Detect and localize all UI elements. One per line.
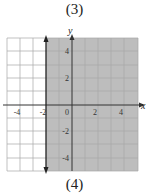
x-tick-label: 4: [119, 108, 123, 117]
x-tick-label: -4: [14, 108, 21, 117]
x-tick-label: 2: [93, 108, 97, 117]
y-tick-label: 4: [65, 47, 69, 56]
y-tick-label: -2: [62, 127, 69, 136]
y-axis-label: y: [67, 25, 73, 36]
x-tick-label: -2: [40, 108, 47, 117]
y-tick-label: 2: [65, 74, 69, 83]
x-tick-label: 0: [65, 108, 69, 117]
x-axis-label: x: [140, 100, 146, 111]
coordinate-graph: x y -4-2024 42-2-4: [0, 0, 149, 196]
y-tick-label: -4: [62, 154, 69, 163]
figure-label-bottom: (4): [0, 176, 149, 193]
